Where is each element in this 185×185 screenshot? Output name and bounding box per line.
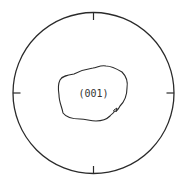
pole-figure-diagram: (001) (0, 0, 185, 185)
pole-label: (001) (78, 88, 108, 99)
